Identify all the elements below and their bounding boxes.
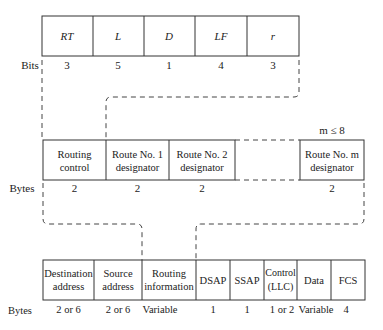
size-rt: 3 bbox=[64, 59, 70, 71]
field-control-llc-line2: (LLC) bbox=[268, 281, 294, 293]
size-destination-address: 2 or 6 bbox=[56, 304, 81, 315]
bytes-label-bottom: Bytes bbox=[8, 305, 32, 316]
field-routing-control-line2: control bbox=[60, 162, 90, 173]
bytes-label-middle: Bytes bbox=[9, 182, 34, 194]
field-rt: RT bbox=[60, 30, 75, 42]
field-dsap: DSAP bbox=[200, 275, 227, 286]
middle-frame bbox=[43, 140, 364, 180]
size-l: 5 bbox=[115, 59, 121, 71]
field-route-m-line2: designator bbox=[310, 162, 354, 173]
field-data: Data bbox=[304, 275, 324, 286]
expansion-connector-top bbox=[42, 60, 299, 140]
frame-format-diagram: RT L D LF r Bits 3 5 1 4 3 m ≤ 8 Routing… bbox=[0, 0, 383, 330]
field-l: L bbox=[114, 30, 121, 42]
size-data: Variable bbox=[299, 304, 334, 315]
field-route-1-line2: designator bbox=[116, 162, 160, 173]
field-r: r bbox=[271, 30, 276, 42]
ellipsis-gap bbox=[235, 140, 300, 180]
size-routing-control: 2 bbox=[72, 182, 78, 194]
size-route-m: 2 bbox=[329, 182, 335, 194]
size-r: 3 bbox=[270, 59, 276, 71]
field-route-2-line2: designator bbox=[180, 162, 224, 173]
field-lf: LF bbox=[214, 30, 228, 42]
field-source-address-line2: address bbox=[102, 281, 134, 292]
size-ssap: 1 bbox=[244, 304, 249, 315]
m-limit-annotation: m ≤ 8 bbox=[319, 124, 345, 136]
size-control-llc: 1 or 2 bbox=[270, 304, 295, 315]
field-source-address: Source bbox=[103, 268, 132, 279]
field-routing-information-line2: information bbox=[144, 281, 194, 292]
size-fcs: 4 bbox=[343, 304, 349, 315]
size-dsap: 1 bbox=[210, 304, 215, 315]
field-route-m: Route No. m bbox=[305, 149, 359, 160]
bits-label: Bits bbox=[21, 59, 39, 71]
field-destination-address-line2: address bbox=[53, 281, 85, 292]
field-ssap: SSAP bbox=[234, 275, 259, 286]
field-destination-address: Destination bbox=[44, 268, 93, 279]
field-routing-control: Routing bbox=[58, 149, 93, 160]
size-route-1: 2 bbox=[135, 182, 141, 194]
field-control-llc: Control bbox=[265, 267, 296, 278]
field-route-2: Route No. 2 bbox=[176, 149, 227, 160]
size-source-address: 2 or 6 bbox=[106, 304, 131, 315]
field-d: D bbox=[164, 30, 173, 42]
field-route-1: Route No. 1 bbox=[112, 149, 163, 160]
expansion-connector-bottom bbox=[43, 183, 364, 260]
size-route-2: 2 bbox=[199, 182, 205, 194]
field-routing-information: Routing bbox=[152, 268, 187, 279]
size-d: 1 bbox=[166, 59, 172, 71]
field-fcs: FCS bbox=[339, 275, 358, 286]
size-routing-information: Variable bbox=[143, 304, 178, 315]
size-lf: 4 bbox=[218, 59, 224, 71]
